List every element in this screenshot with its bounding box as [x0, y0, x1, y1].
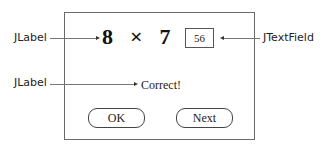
annotation-equation-jlabel: JLabel — [14, 31, 47, 44]
result-label: Correct! — [141, 78, 181, 92]
operator-symbol: × — [130, 25, 143, 49]
ok-button[interactable]: OK — [88, 108, 145, 128]
arrowhead-left-icon — [220, 36, 224, 40]
operand-a: 8 — [102, 25, 113, 49]
leader-line-equation — [50, 38, 96, 39]
answer-textfield[interactable]: 56 — [185, 28, 214, 48]
annotation-jtextfield: JTextField — [263, 31, 314, 44]
leader-line-textfield — [224, 38, 260, 39]
arrowhead-right-icon — [134, 82, 138, 86]
leader-line-result — [50, 84, 134, 85]
arrowhead-right-icon — [96, 36, 100, 40]
next-button[interactable]: Next — [176, 108, 233, 128]
annotation-result-jlabel: JLabel — [14, 76, 47, 89]
operand-b: 7 — [160, 25, 171, 49]
